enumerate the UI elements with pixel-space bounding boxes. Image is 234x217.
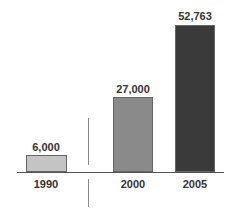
break-line-lower [88,179,89,207]
break-line-upper [88,118,89,165]
x-axis-line [17,172,224,173]
value-label-1990: 6,000 [16,141,76,153]
category-label-2005: 2005 [170,178,220,190]
value-label-2000: 27,000 [103,83,163,95]
category-label-2000: 2000 [108,178,158,190]
value-label-2005: 52,763 [165,10,225,22]
bar-2000 [113,97,153,172]
category-label-1990: 1990 [21,178,71,190]
bar-1990 [26,155,67,172]
bar-2005 [175,25,215,172]
